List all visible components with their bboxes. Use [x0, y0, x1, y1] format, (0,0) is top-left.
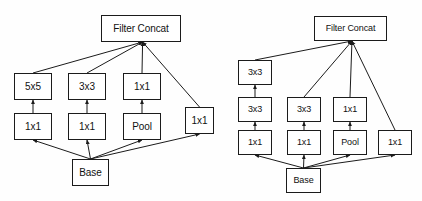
- node-label: Base: [293, 176, 313, 185]
- edge-l-1x1-t-to-l-concat: [142, 42, 143, 73]
- node-r-1x1-c: 1x1: [287, 130, 321, 155]
- node-label: Base: [79, 168, 101, 178]
- node-r-pool: Pool: [333, 130, 367, 155]
- edge-l-base-to-l-1x1-b: [87, 140, 91, 159]
- node-l-pool: Pool: [123, 113, 161, 140]
- node-r-concat: Filter Concat: [314, 16, 387, 41]
- node-label: 3x3: [297, 105, 311, 114]
- edge-l-3x3-to-l-concat: [87, 42, 143, 73]
- node-l-1x1-b: 1x1: [68, 113, 106, 140]
- node-l-concat: Filter Concat: [101, 15, 181, 42]
- node-label: 1x1: [248, 138, 262, 147]
- node-l-base: Base: [72, 159, 109, 186]
- edge-r-3x3-t-to-r-concat: [255, 41, 352, 60]
- edge-l-5x5-to-l-concat: [33, 42, 143, 73]
- inception-module-figure: Filter Concat5x53x31x11x11x1Pool1x1BaseF…: [0, 0, 422, 201]
- edge-r-1x1-p-to-r-concat: [350, 41, 352, 97]
- node-label: 5x5: [25, 82, 41, 92]
- edge-r-base-to-r-1x1-l: [255, 155, 304, 168]
- node-r-3x3-t: 3x3: [238, 60, 272, 85]
- node-label: 1x1: [388, 138, 402, 147]
- node-l-1x1-a: 1x1: [14, 113, 52, 140]
- edge-l-base-to-l-1x1-a: [33, 140, 91, 159]
- node-label: 3x3: [248, 68, 262, 77]
- node-r-1x1-p: 1x1: [333, 97, 367, 122]
- node-r-base: Base: [286, 168, 321, 193]
- node-label: 1x1: [134, 82, 150, 92]
- node-label: Filter Concat: [113, 24, 168, 34]
- node-label: Filter Concat: [326, 24, 376, 33]
- node-label: Pool: [341, 138, 359, 147]
- node-r-3x3-c: 3x3: [287, 97, 321, 122]
- node-label: 3x3: [248, 105, 262, 114]
- node-l-3x3: 3x3: [68, 73, 106, 100]
- edge-r-base-to-r-1x1-r: [304, 155, 396, 168]
- node-label: 1x1: [192, 116, 208, 126]
- node-r-1x1-r: 1x1: [378, 130, 412, 155]
- node-l-1x1-t: 1x1: [123, 73, 161, 100]
- node-l-1x1-r: 1x1: [185, 107, 214, 134]
- edge-r-base-to-r-pool: [304, 155, 351, 168]
- node-label: 1x1: [297, 138, 311, 147]
- node-label: Pool: [132, 122, 152, 132]
- node-label: 1x1: [343, 105, 357, 114]
- node-l-5x5: 5x5: [14, 73, 52, 100]
- node-label: 1x1: [25, 122, 41, 132]
- node-label: 3x3: [79, 82, 95, 92]
- node-r-1x1-l: 1x1: [238, 130, 272, 155]
- edge-r-base-to-r-1x1-c: [304, 155, 305, 168]
- edge-l-base-to-l-pool: [91, 140, 143, 159]
- node-r-3x3-m: 3x3: [238, 97, 272, 122]
- node-label: 1x1: [79, 122, 95, 132]
